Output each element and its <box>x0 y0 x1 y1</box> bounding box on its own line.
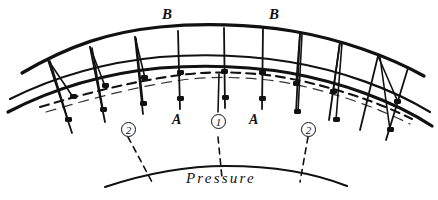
diagram-root: B B A A 1 2 2 Pressure <box>0 0 438 200</box>
node-dot <box>141 75 148 80</box>
node-dot <box>177 96 184 101</box>
wedge-diagonal <box>380 57 390 130</box>
node-dot <box>387 127 394 132</box>
marker-crown-1: 1 <box>211 114 226 129</box>
node-dot <box>333 117 340 122</box>
label-voussoir-b-right: B <box>269 6 279 23</box>
node-dot <box>259 96 266 101</box>
node-dot <box>140 101 147 106</box>
leader-line-right <box>300 137 308 182</box>
label-springing-a-left: A <box>172 112 181 128</box>
node-dot <box>394 99 401 104</box>
node-dot <box>102 83 109 88</box>
node-dot <box>221 69 228 74</box>
marker-haunch-left-2: 2 <box>121 122 136 137</box>
node-dot <box>65 117 72 122</box>
node-dot <box>177 70 184 75</box>
node-dot <box>293 81 300 86</box>
extrados-arc <box>22 25 424 76</box>
arch-ring <box>8 25 432 126</box>
label-springing-a-right: A <box>249 112 258 128</box>
node-dot <box>330 89 337 94</box>
node-dot <box>294 109 301 114</box>
node-dot <box>70 94 77 99</box>
leader-line-crown-stub <box>218 74 219 112</box>
node-dot <box>100 107 107 112</box>
node-dot <box>259 70 266 75</box>
node-dot <box>222 95 229 100</box>
label-voussoir-b-left: B <box>162 6 172 23</box>
node-dots <box>65 69 401 132</box>
label-pressure: Pressure <box>186 170 256 187</box>
marker-haunch-right-2: 2 <box>301 122 316 137</box>
